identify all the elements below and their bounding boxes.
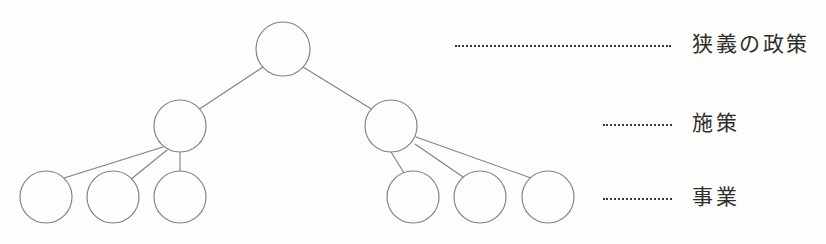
node-root[interactable] [256, 22, 310, 76]
leader-line-level-3 [603, 198, 672, 200]
node-mid-right[interactable] [365, 100, 417, 152]
level-label-project: 事業 [692, 187, 739, 208]
node-leaf-6[interactable] [522, 171, 574, 223]
node-leaf-4[interactable] [387, 171, 439, 223]
edge-mid-left-to-leaf-2 [130, 150, 167, 180]
leader-line-level-2 [603, 124, 672, 126]
node-mid-left[interactable] [154, 100, 206, 152]
edge-root-to-mid-right [303, 67, 373, 110]
tree-edges-group [64, 67, 531, 180]
edge-root-to-mid-left [198, 67, 263, 110]
node-leaf-3[interactable] [154, 171, 206, 223]
node-leaf-2[interactable] [87, 171, 139, 223]
edge-mid-right-to-leaf-4 [391, 152, 404, 173]
tree-nodes-group [20, 22, 574, 223]
policy-hierarchy-diagram: 狭義の政策 施策 事業 [0, 0, 826, 244]
level-label-policy: 狭義の政策 [692, 34, 810, 55]
node-leaf-1[interactable] [20, 171, 72, 223]
leader-line-level-1 [455, 45, 671, 47]
node-leaf-5[interactable] [454, 171, 506, 223]
level-label-measure: 施策 [692, 113, 739, 134]
